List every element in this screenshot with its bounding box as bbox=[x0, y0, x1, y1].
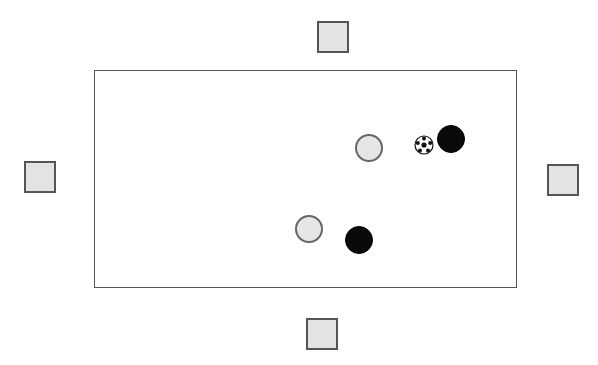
playing-field bbox=[94, 70, 517, 288]
grey-player bbox=[295, 215, 323, 243]
goal-square-top bbox=[317, 21, 349, 53]
goal-square-right bbox=[547, 164, 579, 196]
goal-square-left bbox=[24, 161, 56, 193]
grey-player bbox=[355, 134, 383, 162]
black-player bbox=[437, 125, 465, 153]
soccer-ball-icon bbox=[414, 135, 434, 155]
black-player bbox=[345, 226, 373, 254]
goal-square-bottom bbox=[306, 318, 338, 350]
